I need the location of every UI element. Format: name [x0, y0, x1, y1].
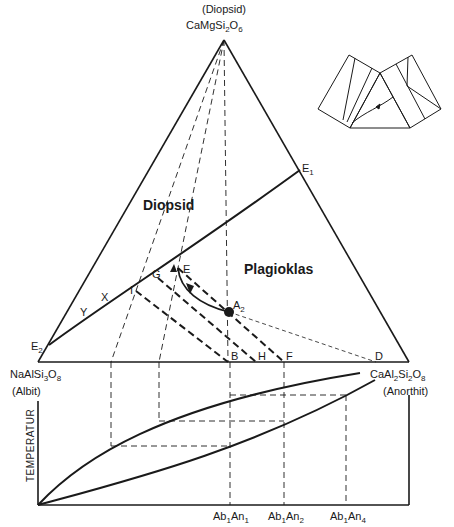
label-g: G — [152, 268, 161, 280]
apex-formula: CaMgSi2O6 — [186, 19, 243, 34]
label-e: E — [183, 263, 190, 275]
apex-name: (Diopsid) — [202, 3, 246, 15]
temperature-chart — [38, 373, 409, 505]
crystallization-paths — [136, 268, 284, 362]
label-d: D — [375, 350, 383, 362]
phase-diagram: Diopsid Plagioklas (Diopsid) CaMgSi2O6 E… — [0, 0, 454, 527]
projection-lines — [111, 362, 346, 505]
region-diopsid: Diopsid — [143, 197, 194, 213]
y-axis-label: TEMPERATUR — [25, 409, 36, 482]
label-f: F — [286, 350, 293, 362]
a2-d-line — [229, 312, 376, 362]
region-plagioklas: Plagioklas — [244, 261, 313, 277]
tick-ab1an1: Ab1An1 — [213, 510, 249, 525]
label-e1: E1 — [302, 162, 314, 177]
label-x: X — [101, 291, 109, 303]
tick-ab1an2: Ab1An2 — [268, 510, 304, 525]
anorthit-formula: CaAl2Si2O8 — [370, 368, 426, 383]
label-b: B — [231, 350, 238, 362]
label-h: H — [258, 350, 266, 362]
tick-ab1an4: Ab1An4 — [330, 510, 366, 525]
label-i: I — [130, 284, 133, 296]
inset-prism-diagram — [318, 55, 441, 128]
triangle-marker-icon — [170, 264, 177, 272]
anorthit-name: (Anorthit) — [383, 385, 428, 397]
albit-name: (Albit) — [12, 385, 41, 397]
label-e2: E2 — [31, 340, 43, 355]
label-a2: A2 — [233, 299, 245, 314]
label-y: Y — [80, 306, 88, 318]
albit-formula: NaAlSi3O8 — [10, 368, 62, 383]
